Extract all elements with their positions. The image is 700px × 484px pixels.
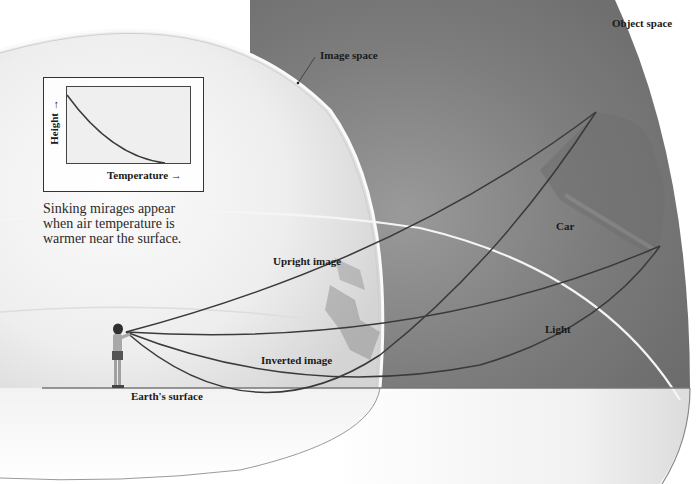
graph-y-label: Height → — [48, 99, 60, 145]
caption-line: when air temperature is — [43, 216, 233, 231]
label-upright-image: Upright image — [273, 255, 341, 267]
graph-curve — [67, 87, 190, 163]
mirage-diagram: Height → Temperature → Sinking mirages a… — [0, 0, 700, 484]
caption-line: Sinking mirages appear — [43, 201, 233, 216]
label-object-space: Object space — [612, 17, 672, 29]
graph-x-label: Temperature → — [107, 169, 182, 181]
temperature-height-graph: Height → Temperature → — [43, 77, 204, 192]
label-earths-surface: Earth's surface — [131, 390, 203, 402]
graph-plot-area — [66, 86, 191, 164]
label-car: Car — [556, 220, 574, 232]
label-inverted-image: Inverted image — [261, 354, 332, 366]
caption: Sinking mirages appear when air temperat… — [43, 201, 233, 246]
object-space-lower-bowl — [330, 388, 690, 484]
caption-line: warmer near the surface. — [43, 231, 233, 246]
label-light: Light — [545, 323, 571, 335]
label-image-space: Image space — [320, 49, 378, 61]
